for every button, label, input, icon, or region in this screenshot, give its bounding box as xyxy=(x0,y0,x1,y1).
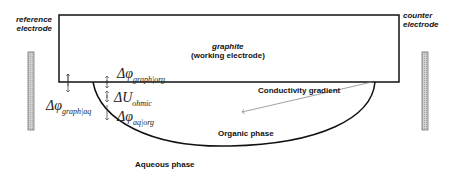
potential-subscript: aq|org xyxy=(133,118,154,127)
potential-graph-org: Δφgraph|org xyxy=(117,64,165,82)
reference-electrode-label: reference electrode xyxy=(16,15,52,33)
reference-label-line2: electrode xyxy=(16,24,52,33)
potential-aq-org: Δφaq|org xyxy=(117,107,154,125)
organic-phase-label: Organic phase xyxy=(218,129,274,138)
working-electrode-label: (working electrode) xyxy=(191,51,265,60)
aqueous-phase-label: Aqueous phase xyxy=(135,160,195,169)
counter-electrode-label: counter electrode xyxy=(403,11,439,29)
potential-symbol: Δφ xyxy=(46,98,62,113)
graphite-label: graphite xyxy=(212,42,244,51)
potential-subscript: graph|aq xyxy=(62,107,91,116)
potential-ohmic: ΔUohmic xyxy=(114,88,152,106)
potential-graph-aq: Δφgraph|aq xyxy=(46,96,91,114)
diagram-canvas xyxy=(0,0,456,172)
potential-symbol: ΔU xyxy=(114,90,132,105)
counter-label-line2: electrode xyxy=(403,20,439,29)
potential-subscript: graph|org xyxy=(133,75,165,84)
conductivity-gradient-label: Conductivity gradient xyxy=(258,86,340,95)
counter-electrode-bar xyxy=(422,52,428,130)
reference-electrode-bar xyxy=(28,52,34,130)
counter-label-line1: counter xyxy=(403,11,439,20)
reference-label-line1: reference xyxy=(16,15,52,24)
potential-symbol: Δφ xyxy=(117,109,133,124)
potential-symbol: Δφ xyxy=(117,66,133,81)
